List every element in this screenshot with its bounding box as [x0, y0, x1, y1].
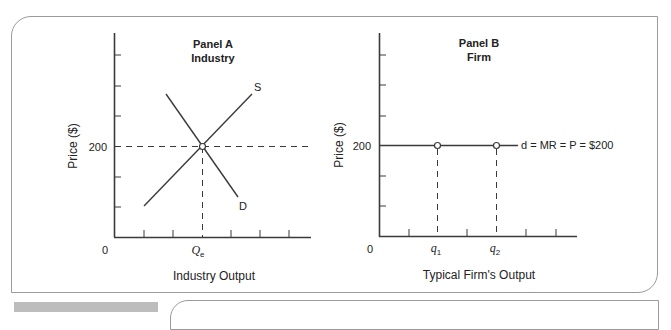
panel-a-subtitle: Industry [191, 52, 235, 64]
panel-b-y-label: Price ($) [332, 122, 346, 167]
panel-b-y-tick-200: 200 [353, 140, 371, 152]
panel-b-q2-label: q2 [490, 241, 501, 257]
panel-a-x-label: Industry Output [173, 269, 256, 283]
q1-point [435, 143, 441, 149]
panel-b [379, 33, 577, 237]
panel-b-x-label: Typical Firm's Output [423, 268, 536, 282]
equilibrium-point [200, 144, 206, 150]
firm-demand-label: d = MR = P = $200 [521, 139, 613, 151]
panel-b-q1-label: q1 [431, 241, 442, 257]
panel-b-subtitle: Firm [467, 51, 491, 63]
panel-a-labels: Panel A Industry Price ($) 200 0 Qe Indu… [66, 38, 261, 283]
supply-curve [144, 94, 252, 206]
q2-point [494, 143, 500, 149]
supply-label: S [254, 81, 261, 93]
panel-b-x-ticks [409, 229, 556, 236]
panel-b-origin: 0 [367, 243, 373, 255]
panel-a-x-ticks [144, 230, 289, 237]
panel-b-labels: Panel B Firm Price ($) 200 0 q1 q2 Typic… [332, 37, 613, 282]
demand-label: D [239, 200, 247, 212]
panel-a-y-label: Price ($) [66, 123, 80, 168]
panel-a-origin: 0 [102, 244, 108, 256]
panel-b-title: Panel B [459, 37, 499, 49]
panel-a-title: Panel A [193, 38, 233, 50]
panel-a-y-tick-200: 200 [89, 141, 107, 153]
panel-a-qe-label: Qe [191, 243, 205, 259]
